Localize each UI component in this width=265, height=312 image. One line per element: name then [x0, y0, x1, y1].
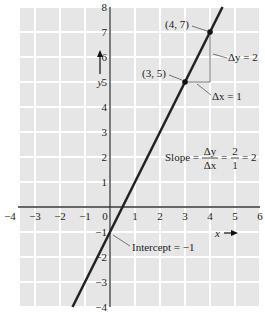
point-label: (3, 5) — [142, 67, 166, 80]
data-point — [182, 79, 188, 85]
y-tick-label: 8 — [102, 1, 108, 13]
x-tick-label: −4 — [4, 210, 16, 222]
equals-sign: = — [221, 151, 227, 163]
x-axis-label: x — [214, 227, 220, 239]
y-tick-label: −3 — [95, 276, 107, 288]
x-tick-label: 4 — [207, 210, 213, 222]
linear-function-chart: −4−3−2−10123456−4−3−2−112345678(4, 7)(3,… — [0, 0, 265, 312]
x-tick-label: 5 — [232, 210, 238, 222]
point-label: (4, 7) — [165, 18, 189, 31]
x-tick-label: 0 — [102, 210, 108, 222]
y-tick-label: −1 — [95, 226, 107, 238]
y-tick-label: 7 — [102, 26, 108, 38]
chart-container: −4−3−2−10123456−4−3−2−112345678(4, 7)(3,… — [0, 0, 265, 312]
y-tick-label: 3 — [102, 126, 108, 138]
y-axis-label: y — [97, 76, 103, 88]
y-tick-label: 4 — [102, 101, 108, 113]
x-tick-label: −3 — [29, 210, 41, 222]
x-tick-label: −2 — [54, 210, 66, 222]
delta-y-label: Δy = 2 — [228, 51, 258, 63]
slope-denominator: Δx — [204, 159, 217, 171]
x-tick-label: 3 — [182, 210, 188, 222]
y-tick-label: 2 — [102, 151, 108, 163]
slope-result: = 2 — [242, 151, 256, 163]
x-tick-label: 1 — [132, 210, 138, 222]
x-tick-label: −1 — [79, 210, 91, 222]
intercept-label: Intercept = −1 — [132, 241, 195, 253]
slope-numerator: 2 — [232, 145, 238, 157]
y-tick-label: 1 — [102, 176, 108, 188]
x-tick-label: 6 — [257, 210, 263, 222]
x-tick-label: 2 — [157, 210, 163, 222]
slope-label: Slope = — [165, 151, 199, 163]
delta-x-label: Δx = 1 — [212, 90, 242, 102]
y-tick-label: −4 — [95, 301, 107, 312]
data-point — [207, 29, 213, 35]
slope-numerator: Δy — [204, 145, 217, 157]
slope-denominator: 1 — [232, 159, 238, 171]
